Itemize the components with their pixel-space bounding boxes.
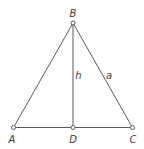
label-a-side: a xyxy=(106,70,112,81)
triangle-diagram: B A D C h a xyxy=(0,0,144,149)
vertex-b xyxy=(71,21,75,25)
label-h: h xyxy=(75,70,81,81)
vertex-a xyxy=(12,126,16,130)
label-b: B xyxy=(70,8,77,19)
label-a: A xyxy=(8,134,16,145)
label-c: C xyxy=(130,134,137,145)
side-ab xyxy=(14,23,74,128)
side-bc xyxy=(73,23,133,128)
vertex-d xyxy=(71,126,75,130)
label-d: D xyxy=(69,134,77,145)
vertex-c xyxy=(131,126,135,130)
